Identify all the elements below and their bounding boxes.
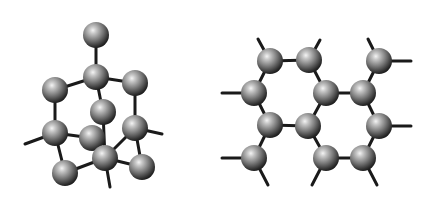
atom-sphere <box>122 115 148 141</box>
atom-sphere <box>296 47 322 73</box>
atom-sphere <box>366 48 392 74</box>
atom-sphere <box>83 64 109 90</box>
atom-sphere <box>241 145 267 171</box>
atom-sphere <box>313 80 339 106</box>
atom-sphere <box>241 80 267 106</box>
atom-sphere <box>129 154 155 180</box>
atom-sphere <box>257 48 283 74</box>
molecule-diagram <box>0 0 432 213</box>
atom-sphere <box>122 70 148 96</box>
fused-ring-molecule-right <box>222 39 411 185</box>
atom-sphere <box>257 112 283 138</box>
atom-sphere <box>42 77 68 103</box>
atom-sphere <box>90 99 116 125</box>
atom-sphere <box>350 80 376 106</box>
cage-molecule-left <box>25 22 162 187</box>
atom-sphere <box>83 22 109 48</box>
atom-sphere <box>295 113 321 139</box>
atom-sphere <box>92 145 118 171</box>
atom-sphere <box>42 120 68 146</box>
atom-sphere <box>52 160 78 186</box>
atom-sphere <box>366 113 392 139</box>
atom-sphere <box>313 145 339 171</box>
atom-sphere <box>350 145 376 171</box>
